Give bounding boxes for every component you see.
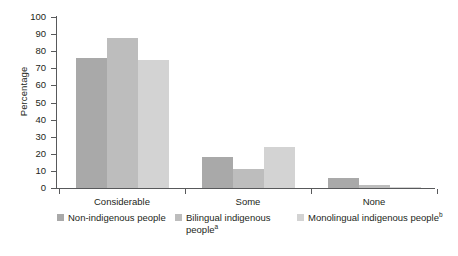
x-axis-tick [311, 189, 312, 194]
y-axis-tick-label: 100 [2, 12, 46, 21]
x-axis-tick [59, 189, 60, 194]
x-axis-category-label: Considerable [59, 196, 185, 207]
y-axis-tick-label: 70 [2, 63, 46, 72]
y-axis-tick-label: 40 [2, 115, 46, 124]
bar [76, 58, 107, 188]
bar [264, 147, 295, 188]
y-axis-tick-label: 30 [2, 132, 46, 141]
legend-swatch [175, 214, 182, 221]
y-axis-tick-label: 20 [2, 149, 46, 158]
bar [233, 169, 264, 188]
bar [107, 38, 138, 188]
y-axis-tick-label: 90 [2, 29, 46, 38]
y-axis-tick [51, 120, 56, 121]
legend-swatch [297, 214, 304, 221]
x-axis-category-label: None [311, 196, 437, 207]
legend-label: Monolingual indigenous peopleb [308, 212, 443, 224]
legend-footnote-marker: a [215, 222, 219, 229]
chart-legend: Non-indigenous peopleBilingual indigenou… [57, 212, 449, 235]
y-axis-tick [51, 188, 56, 189]
y-axis-line [56, 16, 57, 189]
y-axis-tick [51, 68, 56, 69]
y-axis-tick [51, 171, 56, 172]
bar [328, 178, 359, 188]
legend-item: Bilingual indigenous peoplea [175, 212, 297, 235]
legend-footnote-marker: b [439, 211, 443, 218]
y-axis-tick [51, 51, 56, 52]
legend-label: Bilingual indigenous peoplea [186, 212, 297, 235]
legend-item: Non-indigenous people [57, 212, 175, 224]
y-axis-tick-label: 80 [2, 46, 46, 55]
legend-swatch [57, 214, 64, 221]
bar-chart-figure: Percentage 0102030405060708090100 Consid… [0, 0, 458, 256]
y-axis-tick [51, 85, 56, 86]
x-axis-tick [185, 189, 186, 194]
x-axis-line [56, 188, 435, 189]
y-axis-tick [51, 103, 56, 104]
bar [390, 187, 421, 188]
y-axis-tick [51, 17, 56, 18]
bar [359, 185, 390, 188]
legend-label: Non-indigenous people [68, 212, 166, 224]
bar [138, 60, 169, 188]
y-axis-tick-label: 10 [2, 166, 46, 175]
legend-item: Monolingual indigenous peopleb [297, 212, 447, 224]
y-axis-tick-label: 60 [2, 80, 46, 89]
y-axis-tick [51, 154, 56, 155]
bar [202, 157, 233, 188]
x-axis-tick [437, 189, 438, 194]
y-axis-tick-label: 50 [2, 98, 46, 107]
y-axis-tick [51, 137, 56, 138]
x-axis-category-label: Some [185, 196, 311, 207]
y-axis-tick [51, 34, 56, 35]
y-axis-tick-label: 0 [2, 183, 46, 192]
